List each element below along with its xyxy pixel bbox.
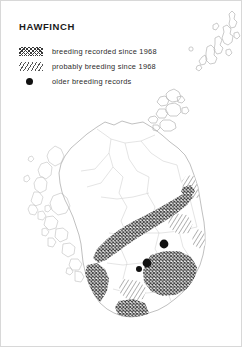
legend-item-label: breeding recorded since 1968 [52,48,157,55]
page-title: HAWFINCH [19,21,75,32]
legend: breeding recorded since 1968 probably br… [19,44,189,89]
diagonal-hatch-swatch-icon [19,62,43,71]
legend-item-label: probably breeding since 1968 [52,63,156,70]
cross-hatch-swatch-icon [19,47,43,56]
legend-item-older-records: older breeding records [19,74,189,89]
filled-circle-icon [19,77,43,86]
legend-item-label: older breeding records [52,78,131,85]
legend-item-breeding-recorded: breeding recorded since 1968 [19,44,189,59]
legend-item-probably-breeding: probably breeding since 1968 [19,59,189,74]
map-annotation-overlay: HAWFINCH breeding recorded since 1968 pr… [1,1,242,347]
distribution-map-page: HAWFINCH breeding recorded since 1968 pr… [0,0,242,347]
